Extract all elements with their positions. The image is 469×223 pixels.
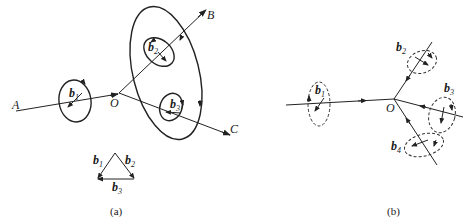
panel-b: O b1 b2 b3 b4 (b) [286,40,463,218]
circuit-direction-icon [180,36,182,40]
triangle-label-b3: b3 [112,180,122,196]
circuit-direction-icon [428,53,432,58]
label-B: B [207,8,215,22]
dislocation-node-diagram: A O B C b1 b2 b3 b1 b2 b3 (a) [0,0,469,223]
burgers-circuit-b2-b [404,47,440,78]
burgers-vector-b3-b-arrow [441,107,444,123]
burgers-vector-b4-b-arrow [412,140,428,146]
label-O: O [110,96,119,110]
caption-a: (a) [110,205,123,218]
circuit-direction-icon [434,140,436,146]
dislocation-line-AO [16,94,118,111]
burgers-label-b2: b2 [148,40,158,56]
burgers-label-b1: b1 [69,86,79,102]
arrow-icon [222,132,230,135]
triangle-label-b2: b2 [125,153,135,169]
burgers-vector-b2-arrow [158,52,166,61]
burgers-label-b2-b: b2 [396,40,406,56]
burgers-circuit-b2 [138,32,179,72]
circuit-direction-icon [451,104,452,110]
label-A: A [11,98,20,112]
burgers-label-b3-b: b3 [444,81,454,97]
arrow-icon [358,101,366,102]
arrow-icon [420,106,426,107]
panel-a: A O B C b1 b2 b3 b1 b2 b3 (a) [11,0,239,218]
label-C: C [230,122,239,136]
triangle-label-b1: b1 [93,153,103,169]
arrow-icon [406,118,410,124]
dislocation-line-1 [286,99,394,105]
burgers-label-b1-b: b1 [315,83,325,99]
label-O-b: O [386,101,395,115]
caption-b: (b) [387,205,400,218]
arrow-icon [198,10,206,17]
dislocation-line-OB [119,10,206,93]
burgers-label-b3: b3 [170,97,180,113]
burgers-vector-b1-b-arrow [315,98,324,111]
burgers-circuit-large [118,0,215,147]
arrow-icon [406,75,410,81]
burgers-label-b4-b: b4 [391,139,401,155]
